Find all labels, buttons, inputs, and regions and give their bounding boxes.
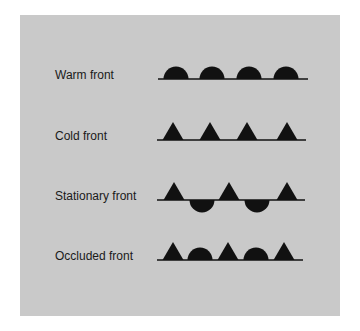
- semicircle-icon: [188, 247, 213, 260]
- front-symbols: [0, 0, 360, 331]
- triangle-icon: [163, 242, 184, 260]
- triangle-icon: [277, 122, 298, 140]
- triangle-icon: [237, 122, 258, 140]
- triangle-icon: [164, 182, 185, 200]
- semicircle-icon: [190, 200, 215, 213]
- triangle-icon: [219, 182, 240, 200]
- cold-front-symbol: [157, 122, 306, 140]
- occluded-front-symbol: [157, 242, 303, 260]
- warm-front-symbol: [158, 67, 308, 80]
- semicircle-icon: [164, 67, 189, 80]
- semicircle-icon: [200, 67, 225, 79]
- semicircle-icon: [237, 67, 262, 80]
- triangle-icon: [218, 242, 239, 260]
- semicircle-icon: [245, 200, 270, 213]
- stationary-front-symbol: [157, 182, 305, 213]
- triangle-icon: [163, 122, 184, 140]
- semicircle-icon: [244, 247, 269, 260]
- triangle-icon: [274, 242, 295, 260]
- triangle-icon: [200, 122, 221, 140]
- triangle-icon: [277, 182, 298, 200]
- semicircle-icon: [274, 67, 299, 80]
